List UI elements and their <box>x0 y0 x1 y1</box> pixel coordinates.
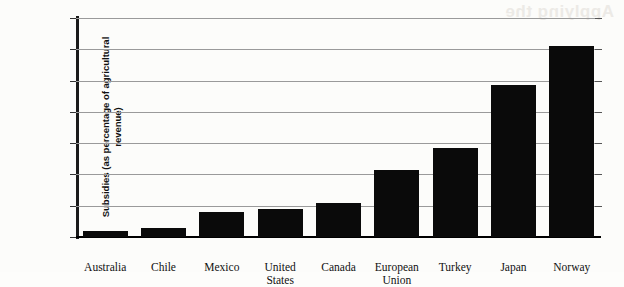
x-axis-label-line: Canada <box>309 261 367 274</box>
x-axis-label: Turkey <box>426 261 484 274</box>
bar <box>83 231 128 237</box>
bar <box>491 85 536 237</box>
plot-area: 010203040506070AustraliaChileMexicoUnite… <box>76 18 601 237</box>
x-axis-label-line: Norway <box>543 261 601 274</box>
bar <box>316 203 361 237</box>
y-tick-mark-right <box>595 49 602 50</box>
bar <box>141 228 186 237</box>
y-tick-mark-right <box>595 206 602 207</box>
x-axis-label-line: Union <box>368 274 426 287</box>
bar <box>549 46 594 237</box>
x-axis-label: Australia <box>76 261 134 274</box>
bar <box>258 209 303 237</box>
y-tick-mark <box>70 143 76 144</box>
gridline <box>76 18 601 19</box>
gridline <box>76 49 601 50</box>
x-axis-label-line: Chile <box>134 261 192 274</box>
x-axis-label-line: Japan <box>484 261 542 274</box>
x-axis-label: Chile <box>134 261 192 274</box>
x-axis-label: UnitedStates <box>251 261 309 287</box>
y-tick-mark <box>70 49 76 50</box>
y-tick-mark-right <box>595 81 602 82</box>
y-tick-mark-right <box>595 174 602 175</box>
y-tick-mark-right <box>595 18 602 19</box>
x-axis-label-line: Mexico <box>193 261 251 274</box>
y-tick-mark <box>70 112 76 113</box>
y-tick-mark <box>70 81 76 82</box>
x-axis-label: Japan <box>484 261 542 274</box>
y-tick-mark <box>70 237 76 238</box>
y-tick-mark-right <box>595 112 602 113</box>
bar <box>433 148 478 237</box>
bar <box>374 170 419 237</box>
x-axis-label-line: Turkey <box>426 261 484 274</box>
x-axis-label-line: Australia <box>76 261 134 274</box>
x-axis-label: Canada <box>309 261 367 274</box>
gridline <box>76 81 601 82</box>
x-axis-label-line: States <box>251 274 309 287</box>
bar <box>199 212 244 237</box>
x-axis-label-line: United <box>251 261 309 274</box>
y-tick-mark <box>70 206 76 207</box>
y-tick-mark-right <box>595 143 602 144</box>
y-tick-mark <box>70 18 76 19</box>
x-axis-label: Mexico <box>193 261 251 274</box>
x-axis-label: Norway <box>543 261 601 274</box>
x-axis-label: EuropeanUnion <box>368 261 426 287</box>
x-axis-label-line: European <box>368 261 426 274</box>
y-tick-mark <box>70 174 76 175</box>
